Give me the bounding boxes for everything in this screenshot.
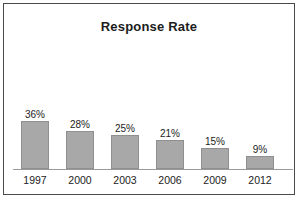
bar[interactable] bbox=[246, 156, 274, 169]
bar[interactable] bbox=[201, 148, 229, 169]
chart-frame-border: Response Rate 36% 28% 25% 21% 15% bbox=[3, 3, 295, 195]
bar-value-label: 25% bbox=[102, 123, 148, 134]
x-axis-tick-label: 1997 bbox=[12, 174, 58, 186]
bar-value-label: 15% bbox=[192, 136, 238, 147]
bar[interactable] bbox=[156, 140, 184, 169]
bar[interactable] bbox=[111, 135, 139, 169]
x-axis-tick-labels: 1997 2000 2003 2006 2009 2012 bbox=[13, 174, 293, 194]
x-axis-baseline bbox=[13, 169, 293, 170]
x-axis-tick-label: 2006 bbox=[147, 174, 193, 186]
x-axis-tick-label: 2012 bbox=[237, 174, 283, 186]
bar-value-label: 28% bbox=[57, 119, 103, 130]
bar[interactable] bbox=[21, 121, 49, 169]
bar-value-label: 21% bbox=[147, 128, 193, 139]
x-axis-tick-label: 2000 bbox=[57, 174, 103, 186]
chart-figure: Response Rate 36% 28% 25% 21% 15% bbox=[0, 0, 298, 198]
bar-value-label: 36% bbox=[12, 109, 58, 120]
x-axis-tick-label: 2003 bbox=[102, 174, 148, 186]
bar-value-label: 9% bbox=[237, 144, 283, 155]
chart-title: Response Rate bbox=[4, 19, 294, 34]
bar[interactable] bbox=[66, 131, 94, 169]
x-axis-tick-label: 2009 bbox=[192, 174, 238, 186]
plot-area: 36% 28% 25% 21% 15% 9% bbox=[13, 44, 293, 170]
